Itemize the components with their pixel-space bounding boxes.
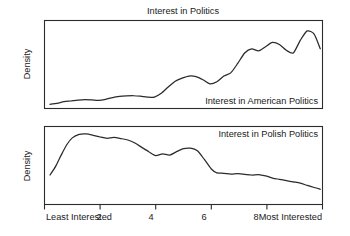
panel-label-american-politics: Interest in American Politics	[205, 96, 318, 106]
chart-title: Interest in Politics	[147, 6, 219, 16]
x-tick-label-2: 2	[96, 212, 101, 222]
figure-background	[0, 0, 350, 236]
x-tick-label-least-interested: Least Interested	[46, 212, 112, 222]
x-tick-label-4: 4	[148, 212, 153, 222]
panel-label-polish-politics: Interest in Polish Politics	[218, 129, 318, 139]
density-plot-figure: Interest in Politics Density Interest in…	[0, 0, 350, 236]
x-tick-label-6: 6	[201, 212, 206, 222]
y-axis-label-bottom: Density	[22, 150, 32, 181]
y-axis-label-top: Density	[22, 48, 32, 79]
x-tick-label-most-interested: Most Interested	[259, 212, 322, 222]
chart-svg: Interest in Politics Density Interest in…	[0, 0, 350, 236]
